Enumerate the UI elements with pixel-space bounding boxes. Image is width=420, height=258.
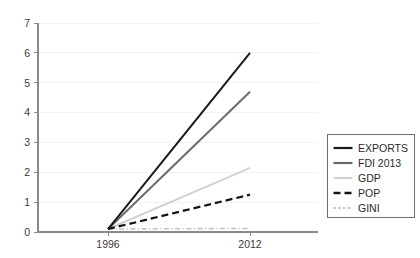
legend-swatch-icon [333, 172, 353, 184]
y-tick-label: 2 [24, 166, 30, 178]
legend-item-pop[interactable]: POP [328, 185, 414, 200]
y-tick-label: 6 [24, 47, 30, 59]
legend-label: GINI [358, 202, 380, 214]
legend-item-exports[interactable]: EXPORTS [328, 140, 414, 155]
y-tick-label: 3 [24, 136, 30, 148]
chart-legend: EXPORTSFDI 2013GDPPOPGINI [327, 134, 415, 218]
legend-swatch-icon [333, 157, 353, 169]
line-chart: 76543210 19962012 EXPORTSFDI 2013GDPPOPG… [0, 0, 420, 258]
legend-swatch-icon [333, 202, 353, 214]
y-tick-label: 0 [24, 226, 30, 238]
legend-label: FDI 2013 [358, 157, 401, 169]
legend-item-gdp[interactable]: GDP [328, 170, 414, 185]
legend-item-gini[interactable]: GINI [328, 200, 414, 215]
series-line-gdp [108, 168, 250, 229]
y-tick-label: 5 [24, 77, 30, 89]
legend-item-fdi-2013[interactable]: FDI 2013 [328, 155, 414, 170]
legend-label: POP [358, 187, 380, 199]
x-axis-ticks: 19962012 [96, 232, 262, 250]
y-tick-label: 7 [24, 17, 30, 29]
series-line-gini [108, 228, 250, 229]
y-axis-ticks: 76543210 [24, 17, 38, 238]
y-tick-label: 4 [24, 106, 30, 118]
x-tick-label: 2012 [238, 238, 262, 250]
x-tick-label: 1996 [96, 238, 120, 250]
legend-label: EXPORTS [358, 142, 408, 154]
gridlines [38, 23, 318, 202]
series-line-pop [108, 195, 250, 229]
legend-label: GDP [358, 172, 381, 184]
axis-lines [38, 23, 318, 232]
chart-plot-area: 76543210 19962012 [0, 0, 420, 258]
legend-swatch-icon [333, 142, 353, 154]
y-tick-label: 1 [24, 196, 30, 208]
legend-swatch-icon [333, 187, 353, 199]
